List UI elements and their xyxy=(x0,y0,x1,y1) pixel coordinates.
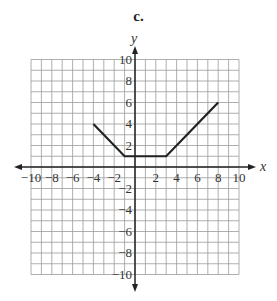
y-tick-label: 4 xyxy=(126,116,133,131)
y-tick-label: −2 xyxy=(118,181,132,196)
y-tick-label: −8 xyxy=(118,245,132,260)
y-tick-label: −10 xyxy=(112,267,132,282)
x-axis-label: x xyxy=(259,159,267,174)
coordinate-plane: xy −10−8−6−4−2246810108642−2−4−6−8−10 xyxy=(0,0,277,301)
x-tick-label: −4 xyxy=(86,170,100,185)
x-tick-label: 8 xyxy=(215,170,222,185)
y-tick-label: −4 xyxy=(118,202,132,217)
x-tick-label: 10 xyxy=(233,170,246,185)
y-tick-label: −6 xyxy=(118,224,132,239)
x-tick-label: −10 xyxy=(21,170,41,185)
x-tick-label: −6 xyxy=(66,170,80,185)
y-tick-label: 10 xyxy=(119,52,132,67)
y-axis-label: y xyxy=(129,31,138,46)
x-axis-right-arrow-icon xyxy=(248,164,256,170)
y-tick-label: 6 xyxy=(126,95,133,110)
y-tick-label: 2 xyxy=(126,138,133,153)
x-tick-label: 2 xyxy=(153,170,160,185)
y-tick-label: 8 xyxy=(126,73,133,88)
x-tick-label: 6 xyxy=(194,170,201,185)
x-tick-label: −8 xyxy=(45,170,59,185)
y-axis-top-arrow-icon xyxy=(132,46,138,54)
x-tick-label: 4 xyxy=(173,170,180,185)
y-axis-bottom-arrow-icon xyxy=(132,284,138,292)
